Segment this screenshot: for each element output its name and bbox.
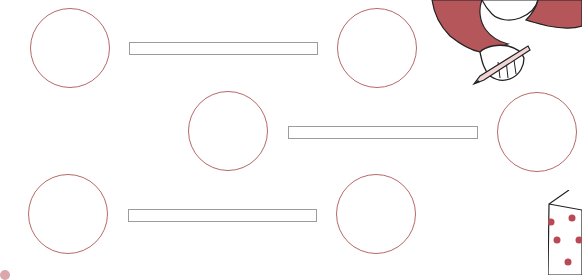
row1-left-circle xyxy=(30,8,110,88)
row3-answer-box[interactable] xyxy=(128,209,317,222)
furry-arm-pencil-illustration xyxy=(420,0,582,90)
row1-right-circle xyxy=(337,8,417,88)
row3-left-circle xyxy=(28,174,108,254)
row2-answer-box[interactable] xyxy=(288,126,478,139)
corner-dot-decoration xyxy=(0,270,10,280)
row1-answer-box[interactable] xyxy=(129,42,318,55)
row2-left-circle xyxy=(188,91,268,171)
polka-dot-box-illustration xyxy=(548,190,582,275)
row2-right-circle xyxy=(497,92,577,172)
row3-right-circle xyxy=(336,174,416,254)
